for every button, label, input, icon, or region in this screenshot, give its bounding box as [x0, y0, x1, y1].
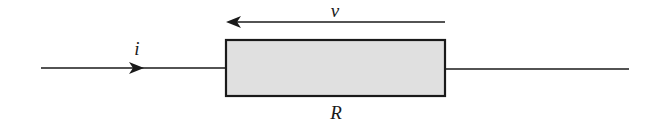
resistor-label: R [330, 103, 342, 122]
voltage-label: v [331, 1, 339, 20]
resistor-body [226, 40, 445, 96]
current-label: i [134, 39, 139, 58]
